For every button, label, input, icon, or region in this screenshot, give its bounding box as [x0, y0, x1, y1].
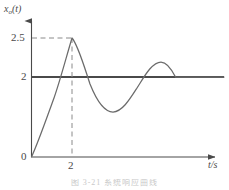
- response-curve-plot: [0, 0, 229, 190]
- figure-container: xo(t) t/s 2.5 2 0 2 图 3-21 系统响应曲线: [0, 0, 229, 190]
- y-axis-label: xo(t): [4, 4, 21, 16]
- step-response-curve: [32, 38, 225, 157]
- origin-label-0: 0: [21, 151, 27, 162]
- figure-caption: 图 3-21 系统响应曲线: [0, 179, 229, 187]
- y-tick-label-2: 2: [21, 71, 27, 82]
- y-tick-label-2-5: 2.5: [11, 32, 25, 43]
- x-axis-label: t/s: [208, 160, 217, 170]
- y-axis-label-arg: (t): [12, 3, 21, 14]
- x-tick-label-2: 2: [68, 160, 74, 171]
